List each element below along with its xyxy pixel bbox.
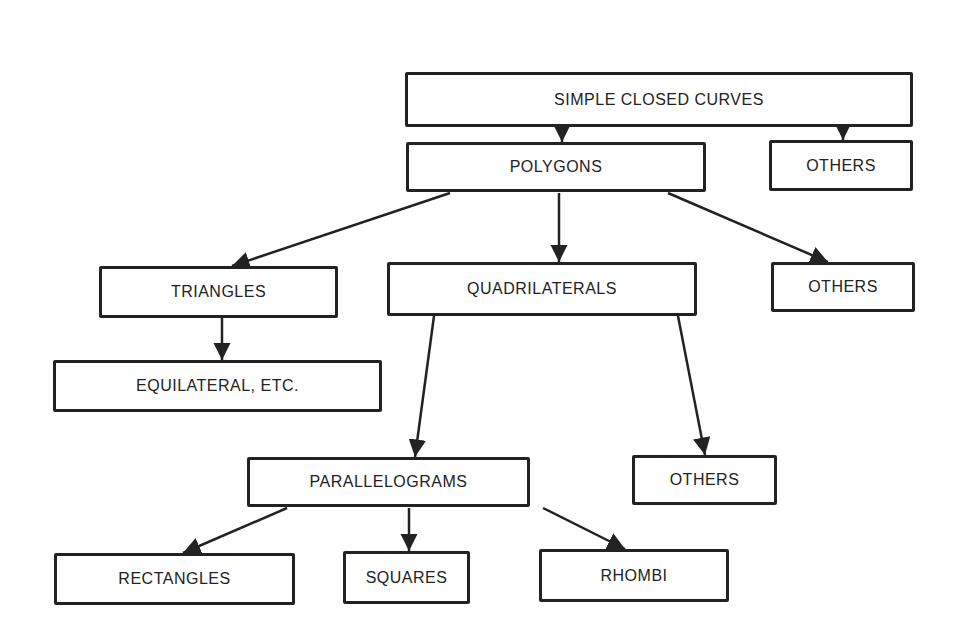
node-quadrilaterals: QUADRILATERALS (387, 262, 697, 316)
node-rhombi: RHOMBI (539, 549, 729, 602)
node-label: TRIANGLES (171, 283, 266, 301)
node-others-curves: OTHERS (769, 140, 913, 191)
node-parallelograms: PARALLELOGRAMS (247, 457, 530, 507)
node-label: RECTANGLES (118, 570, 230, 588)
arrow-parallelograms-to-rhombi (543, 508, 625, 549)
arrow-parallelograms-to-rectangles (183, 508, 287, 553)
node-triangles: TRIANGLES (99, 266, 338, 318)
node-label: RHOMBI (601, 567, 668, 585)
node-label: QUADRILATERALS (467, 280, 617, 298)
node-label: POLYGONS (510, 158, 603, 176)
node-label: PARALLELOGRAMS (310, 473, 468, 491)
node-others-quadrilaterals: OTHERS (632, 455, 777, 505)
node-label: SQUARES (366, 569, 448, 587)
node-label: OTHERS (808, 278, 878, 296)
node-rectangles: RECTANGLES (54, 553, 295, 605)
taxonomy-diagram: SIMPLE CLOSED CURVES POLYGONS OTHERS TRI… (0, 0, 961, 642)
node-polygons: POLYGONS (406, 142, 706, 192)
node-label: EQUILATERAL, ETC. (136, 377, 299, 395)
node-squares: SQUARES (343, 551, 470, 604)
arrow-quadrilaterals-to-parallelograms (415, 316, 434, 457)
node-others-polygons: OTHERS (771, 262, 915, 312)
node-label: SIMPLE CLOSED CURVES (554, 91, 764, 109)
node-label: OTHERS (806, 157, 876, 175)
node-label: OTHERS (670, 471, 740, 489)
node-simple-closed-curves: SIMPLE CLOSED CURVES (405, 72, 913, 127)
arrow-polygons-to-triangles (232, 193, 450, 266)
node-equilateral-etc: EQUILATERAL, ETC. (53, 360, 382, 412)
arrow-quadrilaterals-to-others-3 (678, 316, 705, 455)
arrow-polygons-to-others-2 (668, 193, 828, 262)
